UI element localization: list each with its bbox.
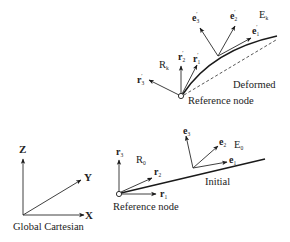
r2-prime-label: r2′: [178, 50, 185, 63]
rk-frame-label: Rk: [159, 59, 169, 71]
y-axis-label: Y: [84, 171, 92, 183]
deformed-reference-node: [178, 93, 183, 98]
e2-prime-label: e2′: [230, 9, 237, 22]
e1-vector-arrow: [193, 162, 227, 168]
e3-prime-label: e3′: [192, 11, 199, 24]
deformed-configuration: r3′ Rk r2′ r1′ e3′ e2′ Ek e1′ Deformed R…: [137, 9, 277, 106]
ek-frame-label: Ek: [259, 9, 268, 21]
deformed-label: Deformed: [233, 79, 276, 90]
r3-prime-vector-arrow: [149, 80, 179, 95]
initial-reference-node-label: Reference node: [113, 201, 179, 212]
x-axis-label: X: [85, 209, 93, 221]
deformed-reference-node-label: Reference node: [188, 95, 254, 106]
r1-prime-label: r1′: [193, 52, 200, 65]
r1-label: r1: [160, 188, 167, 200]
global-cartesian-frame: Z Y X Global Cartesian: [13, 143, 93, 232]
r0-frame-label: R0: [136, 154, 146, 166]
global-cartesian-label: Global Cartesian: [13, 221, 85, 232]
e1-prime-label: e1′: [252, 24, 259, 37]
z-axis-label: Z: [19, 143, 26, 155]
e3-prime-vector-arrow: [200, 28, 218, 56]
r2-label: r2: [154, 166, 161, 178]
initial-label: Initial: [205, 176, 230, 187]
y-axis-arrow: [23, 180, 81, 215]
e2-label: e2: [219, 136, 226, 148]
r3-label: r3: [116, 146, 123, 158]
initial-configuration: r3 R0 r2 r1 e3 e2 E0 e1 Initial Referenc…: [113, 125, 265, 212]
e3-vector-arrow: [186, 136, 193, 168]
initial-reference-node: [116, 191, 121, 196]
corotational-frames-diagram: Z Y X Global Cartesian r3 R0 r2 r1 e3 e2…: [0, 0, 290, 242]
e3-label: e3: [183, 125, 190, 137]
e1-label: e1: [229, 154, 236, 166]
r3-prime-label: r3′: [137, 73, 144, 86]
e0-frame-label: E0: [234, 139, 243, 151]
